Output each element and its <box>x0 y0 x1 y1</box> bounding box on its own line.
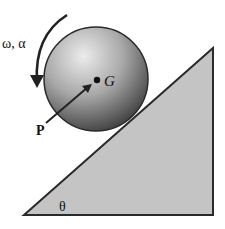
angular-label: ω, α <box>2 36 26 51</box>
angle-label: θ <box>59 199 66 214</box>
center-of-mass-dot <box>94 77 100 83</box>
force-label: P <box>36 123 45 138</box>
diagram-canvas: ω, α G P θ <box>0 0 225 229</box>
center-label: G <box>104 73 115 89</box>
rotation-arrowhead-icon <box>30 75 44 88</box>
